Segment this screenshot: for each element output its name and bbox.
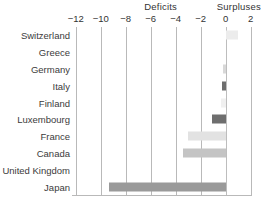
x-tick-label: 0 bbox=[223, 13, 228, 24]
surpluses-band-label: Surpluses bbox=[217, 1, 261, 12]
bar-row: Canada bbox=[0, 145, 266, 162]
deficits-surpluses-bar-chart: Deficits Surpluses −12−10−8−6−4−202 Swit… bbox=[0, 0, 266, 201]
bar-rows: SwitzerlandGreeceGermanyItalyFinlandLuxe… bbox=[0, 27, 266, 195]
bar-row: Japan bbox=[0, 178, 266, 195]
bar bbox=[109, 182, 225, 191]
bar-row: Switzerland bbox=[0, 27, 266, 44]
bar-row: Luxembourg bbox=[0, 111, 266, 128]
bar bbox=[188, 132, 226, 141]
deficits-band-label: Deficits bbox=[144, 1, 177, 12]
category-label: Germany bbox=[31, 63, 70, 74]
x-tick-label: −12 bbox=[68, 13, 84, 24]
category-label: Switzerland bbox=[21, 30, 70, 41]
category-label: United Kingdom bbox=[2, 164, 70, 175]
bar-row: United Kingdom bbox=[0, 161, 266, 178]
axis-baseline bbox=[72, 195, 252, 196]
category-label: Finland bbox=[39, 97, 70, 108]
bar bbox=[226, 31, 239, 40]
bar bbox=[223, 64, 226, 73]
x-tick-label: −8 bbox=[120, 13, 131, 24]
plot-area: SwitzerlandGreeceGermanyItalyFinlandLuxe… bbox=[0, 27, 266, 195]
bar-row: Germany bbox=[0, 61, 266, 78]
x-axis-tick-labels: −12−10−8−6−4−202 bbox=[0, 13, 266, 27]
bar bbox=[221, 98, 226, 107]
x-tick-label: 2 bbox=[248, 13, 253, 24]
x-tick-label: −4 bbox=[170, 13, 181, 24]
category-label: Italy bbox=[53, 80, 70, 91]
bar bbox=[212, 115, 226, 124]
category-label: France bbox=[40, 131, 70, 142]
bar bbox=[222, 81, 226, 90]
bar bbox=[183, 148, 226, 157]
bar-row: Finland bbox=[0, 94, 266, 111]
category-label: Japan bbox=[44, 181, 70, 192]
bar-row: Greece bbox=[0, 44, 266, 61]
category-label: Luxembourg bbox=[17, 114, 70, 125]
x-tick-label: −2 bbox=[195, 13, 206, 24]
bar-row: France bbox=[0, 128, 266, 145]
x-tick-label: −6 bbox=[145, 13, 156, 24]
category-label: Greece bbox=[39, 47, 70, 58]
x-tick-label: −10 bbox=[93, 13, 109, 24]
bar-row: Italy bbox=[0, 77, 266, 94]
category-label: Canada bbox=[37, 147, 70, 158]
